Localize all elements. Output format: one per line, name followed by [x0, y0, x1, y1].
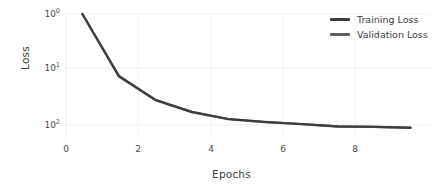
y-tick-middle-exponent: 1	[56, 61, 60, 69]
x-tick-2: 2	[135, 144, 141, 154]
y-tick-bottom: 102	[44, 120, 60, 130]
x-tick-4: 4	[208, 144, 214, 154]
legend-swatch-validation-loss	[330, 33, 350, 35]
chart-legend: Training Loss Validation Loss	[330, 12, 443, 42]
y-tick-middle-base: 10	[44, 63, 55, 73]
y-tick-top-base: 10	[44, 9, 55, 19]
legend-item-validation-loss: Validation Loss	[330, 27, 443, 42]
y-axis-label: Loss	[19, 28, 31, 88]
chart-figure: Loss Epochs 0 2 4 6 8 100 101 102 Traini…	[0, 0, 443, 189]
legend-swatch-training-loss	[330, 18, 350, 20]
legend-label-training-loss: Training Loss	[357, 14, 418, 25]
y-tick-middle: 101	[44, 63, 60, 73]
legend-label-validation-loss: Validation Loss	[357, 29, 428, 40]
x-tick-8: 8	[352, 144, 358, 154]
x-tick-6: 6	[280, 144, 286, 154]
y-tick-top: 100	[44, 9, 60, 19]
y-tick-bottom-base: 10	[44, 120, 55, 130]
x-axis-label: Epochs	[0, 168, 443, 180]
y-tick-bottom-exponent: 2	[56, 118, 60, 126]
x-tick-0: 0	[63, 144, 69, 154]
legend-item-training-loss: Training Loss	[330, 12, 443, 27]
y-tick-top-exponent: 0	[56, 7, 60, 15]
